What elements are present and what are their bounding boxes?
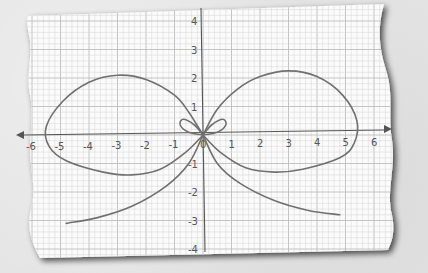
x-tick-label: -3 (112, 140, 122, 151)
y-tick-label: -3 (188, 216, 198, 227)
x-axis-arrow-left-icon (16, 131, 24, 139)
y-tick-label: -2 (188, 187, 198, 198)
x-tick-label: -2 (140, 140, 150, 151)
x-tick-label: -4 (83, 141, 93, 152)
y-tick-label: 4 (191, 16, 197, 27)
x-tick-label: 4 (314, 137, 320, 148)
x-tick-label: 2 (257, 138, 263, 149)
x-tick-label: 3 (286, 138, 292, 149)
x-tick-label: -5 (55, 141, 65, 152)
x-tick-label: -6 (26, 141, 36, 152)
graph-paper-scene: -6-5-4-3-2-101234564321-1-2-3-4 (0, 0, 428, 273)
x-tick-label: 6 (371, 137, 377, 148)
y-tick-label: -4 (188, 244, 198, 255)
x-tick-label: -1 (169, 139, 179, 150)
y-tick-label: -1 (188, 159, 198, 170)
x-tick-label: 1 (229, 139, 235, 150)
y-tick-label: 1 (191, 102, 197, 113)
y-tick-label: 3 (191, 45, 197, 56)
y-tick-label: 2 (191, 73, 197, 84)
x-tick-label: 5 (343, 137, 349, 148)
